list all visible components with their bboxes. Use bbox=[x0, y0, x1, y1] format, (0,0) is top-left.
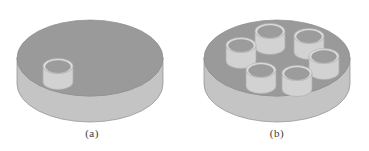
disk-illustration-a bbox=[0, 0, 184, 128]
cylinder-bore-1 bbox=[229, 40, 254, 52]
cylinder-bore-5 bbox=[249, 65, 274, 77]
cylinder-bore-2 bbox=[258, 26, 283, 38]
figure-caption-b: (b) bbox=[185, 126, 369, 140]
disk-top-face bbox=[17, 20, 163, 96]
cylinder-boss-1 bbox=[43, 59, 73, 90]
figure-caption-a: (a) bbox=[0, 126, 184, 140]
disk-illustration-b bbox=[185, 0, 369, 128]
figure-panel: (a) (b) bbox=[0, 0, 369, 151]
cylinder-bore-4 bbox=[312, 51, 337, 63]
figure-panel-b: (b) bbox=[185, 0, 369, 151]
cylinder-bore-3 bbox=[297, 30, 322, 42]
cylinder-boss-6 bbox=[282, 66, 312, 97]
figure-panel-a: (a) bbox=[0, 0, 184, 151]
cylinder-bore-6 bbox=[285, 68, 310, 80]
cylinder-bore-1 bbox=[46, 61, 71, 73]
cylinder-boss-2 bbox=[255, 24, 285, 55]
cylinder-boss-4 bbox=[309, 49, 339, 80]
cylinder-boss-5 bbox=[246, 63, 276, 94]
